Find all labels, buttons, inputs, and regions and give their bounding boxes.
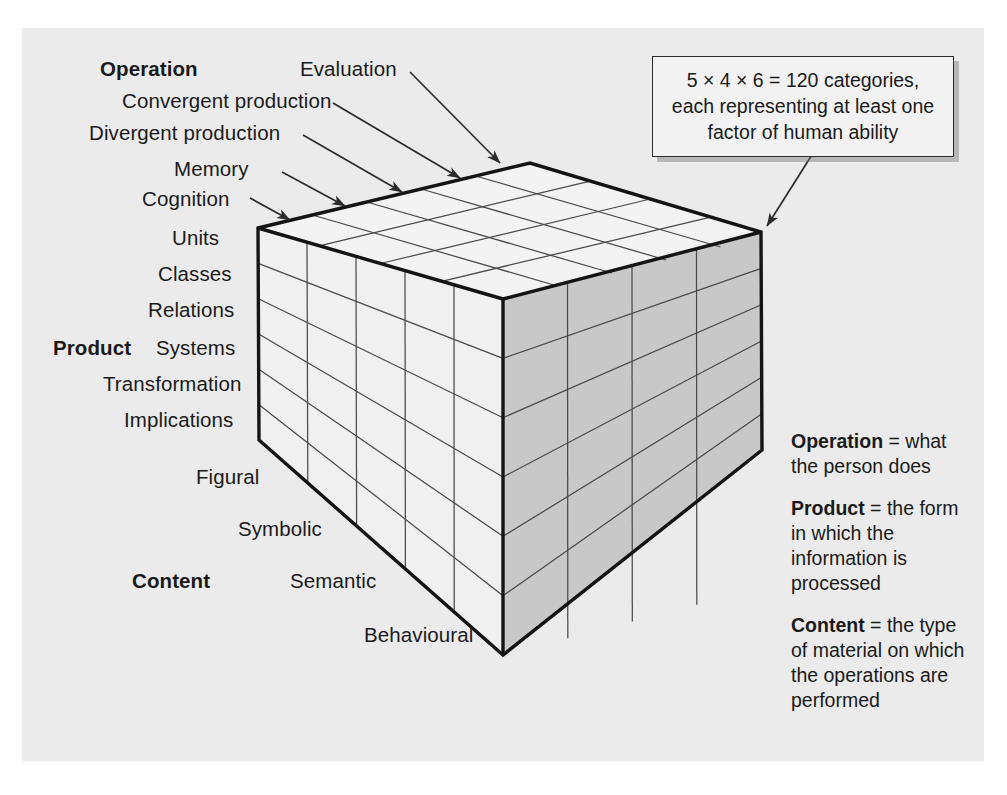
callout-line-2: each representing at least one xyxy=(661,93,945,119)
product-label-implications: Implications xyxy=(124,409,233,431)
callout-line-1: 5 × 4 × 6 = 120 categories, xyxy=(661,67,945,93)
legend-term-operation: Operation xyxy=(791,430,883,452)
legend-term-product: Product xyxy=(791,497,865,519)
operation-label-convergent-production: Convergent production xyxy=(122,90,332,112)
axis-title-content: Content xyxy=(132,570,210,592)
callout-box: 5 × 4 × 6 = 120 categories, each represe… xyxy=(652,56,954,157)
legend-entry-operation: Operation = what the person does xyxy=(791,429,973,479)
operation-label-evaluation: Evaluation xyxy=(300,58,397,80)
legend-entry-content: Content = the type of material on which … xyxy=(791,613,973,713)
legend-entry-product: Product = the form in which the informat… xyxy=(791,496,973,596)
legend: Operation = what the person does Product… xyxy=(791,429,973,730)
product-label-transformation: Transformation xyxy=(103,373,242,395)
callout-leader xyxy=(767,150,815,226)
callout-line-3: factor of human ability xyxy=(661,119,945,145)
product-label-systems: Systems xyxy=(156,337,235,359)
content-label-figural: Figural xyxy=(196,466,259,488)
content-label-semantic: Semantic xyxy=(290,570,376,592)
content-label-symbolic: Symbolic xyxy=(238,518,322,540)
operation-label-divergent-production: Divergent production xyxy=(89,122,280,144)
arrow-convergent-production xyxy=(333,103,460,178)
product-label-relations: Relations xyxy=(148,299,234,321)
operation-label-cognition: Cognition xyxy=(142,188,230,210)
product-label-classes: Classes xyxy=(158,263,232,285)
arrow-memory xyxy=(282,172,345,206)
axis-title-operation: Operation xyxy=(100,58,198,80)
arrow-evaluation xyxy=(410,72,500,163)
figure-page: Operation Evaluation Convergent producti… xyxy=(0,0,1007,795)
arrow-cognition xyxy=(250,198,290,220)
content-label-behavioural: Behavioural xyxy=(364,624,473,646)
operation-label-memory: Memory xyxy=(174,158,249,180)
product-label-units: Units xyxy=(172,227,219,249)
legend-term-content: Content xyxy=(791,614,865,636)
axis-title-product: Product xyxy=(53,337,131,359)
arrow-divergent-production xyxy=(303,135,402,192)
